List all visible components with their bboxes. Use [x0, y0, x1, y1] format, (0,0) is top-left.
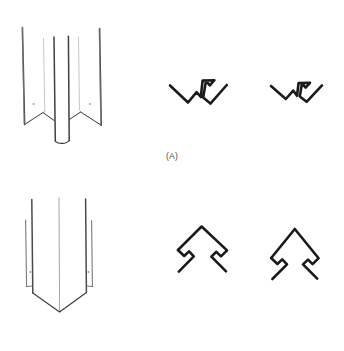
v-profile-compact-path	[271, 83, 322, 102]
panel-right-outer-edge	[86, 199, 87, 293]
panel-left-flange-bottom	[27, 286, 33, 287]
detail-mark-left	[33, 103, 35, 105]
center-lobe-bottom-curve	[55, 141, 69, 144]
flange-left-bottom-edge	[25, 113, 43, 125]
chevron-column-perspective	[26, 198, 93, 312]
fold-line-back-left	[44, 39, 45, 113]
apex-fold-line	[59, 198, 60, 312]
panel-left-flange-edge	[26, 220, 27, 287]
panel-b: (B)	[0, 178, 344, 351]
chevron-profile-asymmetric	[178, 227, 227, 272]
panel-a-caption: (A)	[0, 151, 344, 161]
figure-root: (A)	[0, 0, 344, 351]
center-lobe-left-edge	[54, 37, 55, 141]
panel-a: (A)	[0, 0, 344, 178]
flange-right-bottom-edge	[81, 112, 102, 125]
chevron-profile-symmetric-left	[271, 258, 287, 279]
valley-left-edge	[43, 113, 54, 121]
detail-mark-right	[88, 271, 90, 273]
v-profile-compact	[271, 83, 322, 102]
detail-mark-left	[30, 271, 32, 273]
panel-right-flange-edge	[92, 221, 93, 287]
panel-left-outer-edge	[32, 200, 33, 294]
detail-mark-right	[89, 103, 91, 105]
v-profile-open	[170, 80, 227, 103]
chevron-profile-symmetric	[271, 229, 318, 279]
center-lobe-right-edge	[68, 36, 69, 140]
valley-right-edge	[69, 112, 80, 120]
chevron-profile-symmetric-right	[271, 229, 318, 279]
chevron-profile-asymmetric-left	[178, 250, 194, 272]
panel-right-flange-bottom	[86, 286, 92, 287]
fold-line-back-mid	[79, 37, 80, 110]
panel-b-graphics	[0, 178, 344, 351]
v-profile-open-path	[170, 80, 227, 103]
v-fold-column-perspective	[22, 28, 101, 144]
